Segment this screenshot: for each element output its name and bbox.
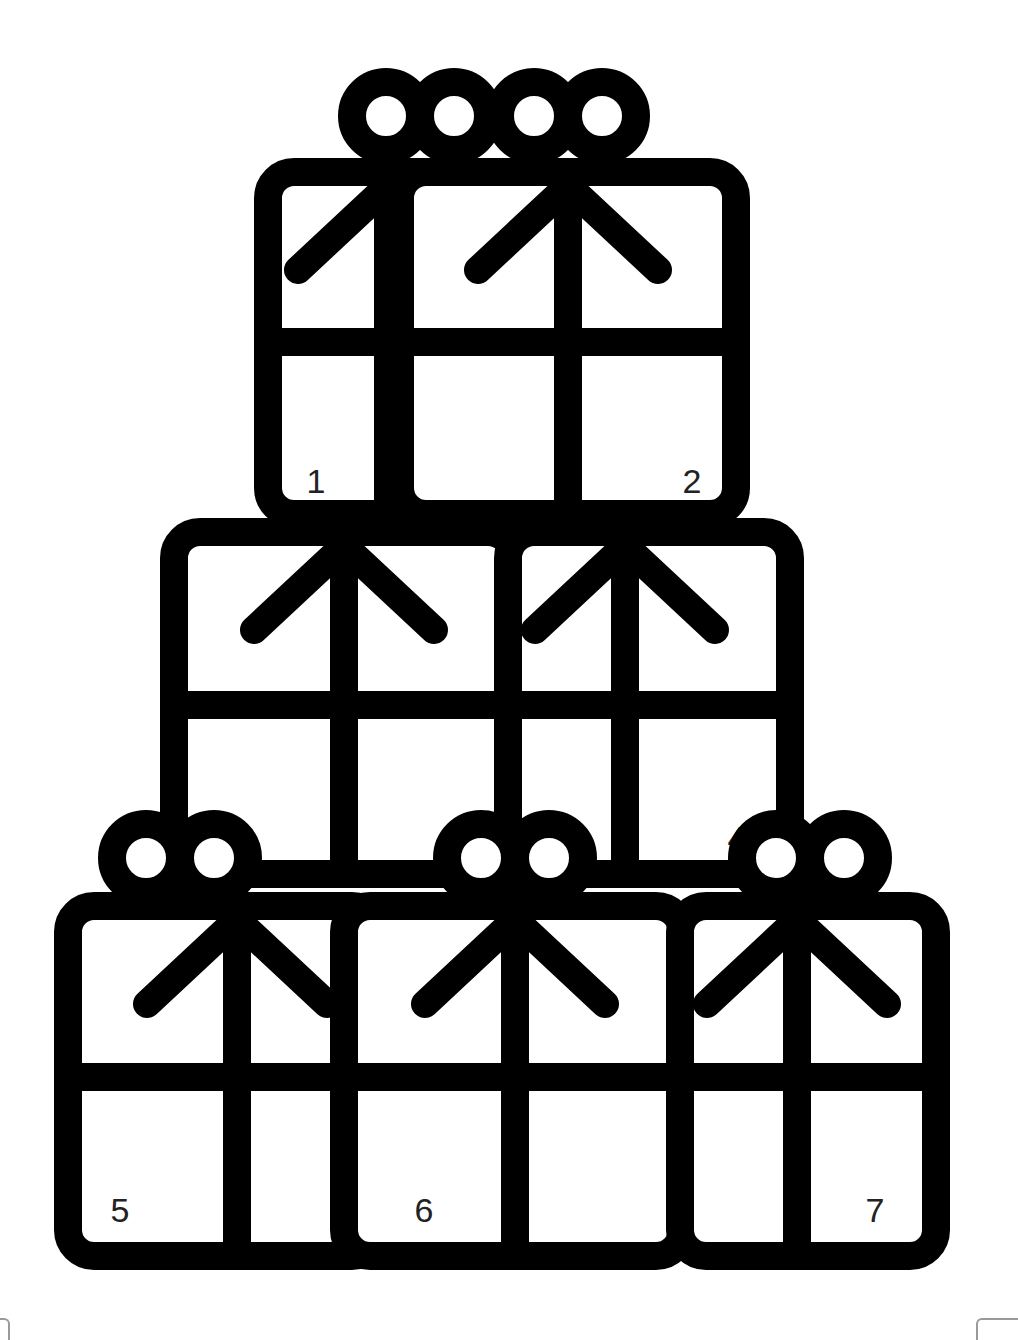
page-corner-left [0,1318,10,1340]
bow-icon [447,824,583,892]
bow-icon [352,82,488,150]
box-number-label: 1 [307,462,326,500]
box-number-label: 5 [111,1191,130,1229]
gift-box-7: 7 [680,824,936,1256]
box-number-label: 7 [866,1191,885,1229]
bow-icon [500,82,636,150]
bow-icon [742,824,878,892]
gift-box-6: 6 [344,824,682,1256]
box-number-label: 2 [683,462,702,500]
bow-icon [112,824,248,892]
box-number-label: 6 [415,1191,434,1229]
page-corner-right [976,1318,1018,1340]
